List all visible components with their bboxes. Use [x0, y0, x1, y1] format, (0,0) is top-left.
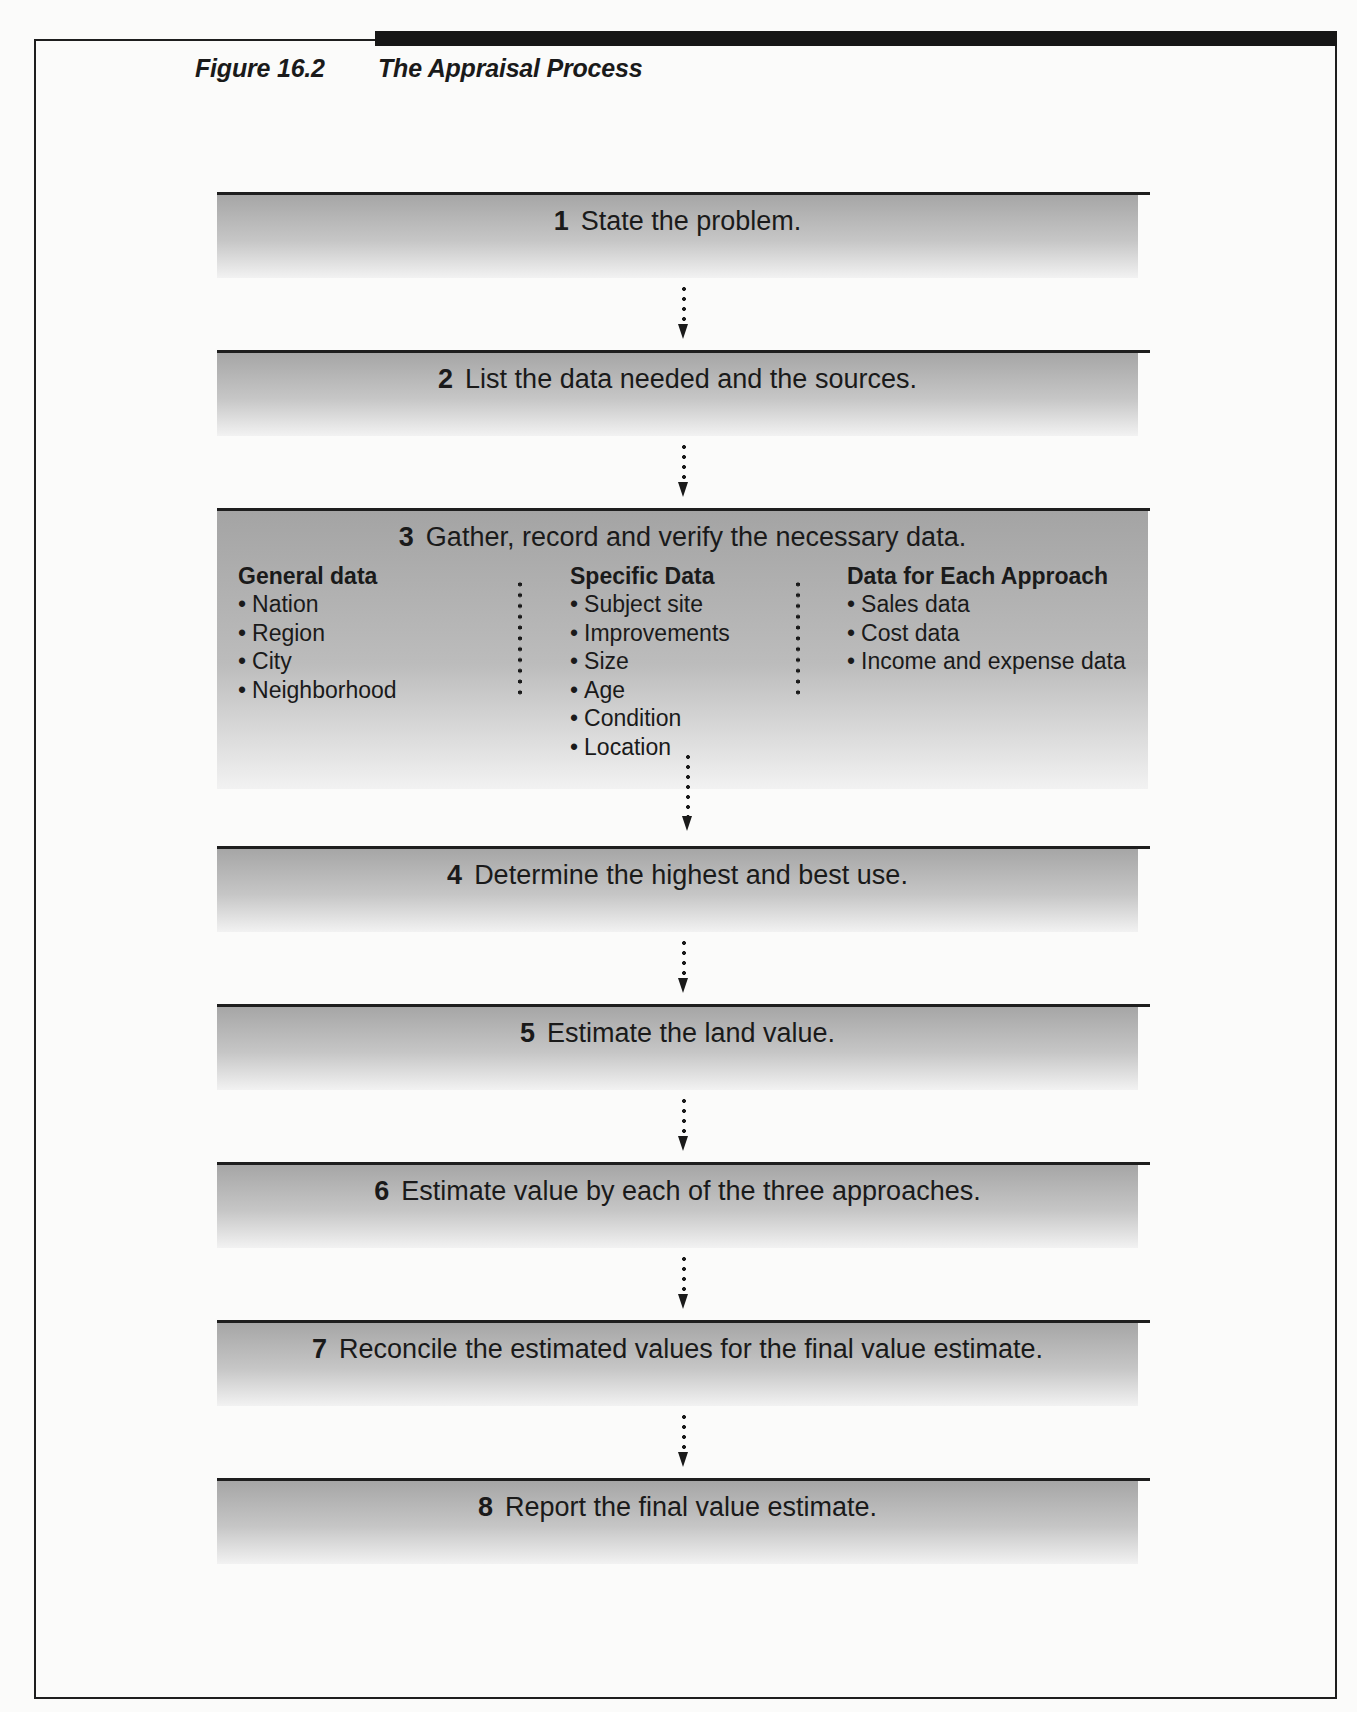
- approach-data-column: Data for Each Approach Sales data Cost d…: [847, 562, 1126, 676]
- step-5-label: 5Estimate the land value.: [217, 1018, 1138, 1049]
- step-2-label: 2List the data needed and the sources.: [217, 364, 1138, 395]
- figure-title: The Appraisal Process: [378, 54, 642, 82]
- list-item: Region: [238, 619, 397, 648]
- step-text: Estimate value by each of the three appr…: [401, 1176, 980, 1206]
- step-4-label: 4Determine the highest and best use.: [217, 860, 1138, 891]
- step-text: List the data needed and the sources.: [465, 364, 917, 394]
- column-heading: Data for Each Approach: [847, 562, 1126, 590]
- list-item: Condition: [570, 704, 730, 733]
- arrow-down-icon: [678, 938, 690, 994]
- list-item: Location: [570, 733, 730, 762]
- list-item: Age: [570, 676, 730, 705]
- step-6-box: 6Estimate value by each of the three app…: [217, 1162, 1150, 1248]
- arrow-down-icon: [678, 442, 690, 498]
- column-separator: [518, 579, 522, 697]
- step-1-label: 1State the problem.: [217, 206, 1138, 237]
- arrow-down-icon: [678, 1412, 690, 1468]
- step-3-label: 3Gather, record and verify the necessary…: [217, 522, 1148, 553]
- step-1-box: 1State the problem.: [217, 192, 1150, 278]
- list-item: Income and expense data: [847, 647, 1126, 676]
- step-2-box: 2List the data needed and the sources.: [217, 350, 1150, 436]
- step-number: 2: [438, 364, 453, 394]
- step-number: 4: [447, 860, 462, 890]
- column-separator: [796, 579, 800, 697]
- list-item: Size: [570, 647, 730, 676]
- step-number: 3: [399, 522, 414, 552]
- step-8-box: 8Report the final value estimate.: [217, 1478, 1150, 1564]
- arrow-down-icon: [682, 752, 694, 832]
- arrow-down-icon: [678, 1254, 690, 1310]
- step-6-label: 6Estimate value by each of the three app…: [217, 1176, 1138, 1207]
- list-item: Improvements: [570, 619, 730, 648]
- list-item: Nation: [238, 590, 397, 619]
- list-item: Subject site: [570, 590, 730, 619]
- list-item: Cost data: [847, 619, 1126, 648]
- step-7-label: 7Reconcile the estimated values for the …: [217, 1334, 1138, 1365]
- step-text: Determine the highest and best use.: [474, 860, 908, 890]
- arrow-down-icon: [678, 1096, 690, 1152]
- step-8-label: 8Report the final value estimate.: [217, 1492, 1138, 1523]
- list-item: Neighborhood: [238, 676, 397, 705]
- list-item: Sales data: [847, 590, 1126, 619]
- general-data-column: General data Nation Region City Neighbor…: [238, 562, 397, 704]
- header-bar: [375, 31, 1337, 46]
- figure-number: Figure 16.2: [195, 54, 378, 83]
- list-item: City: [238, 647, 397, 676]
- step-text: Reconcile the estimated values for the f…: [339, 1334, 1043, 1364]
- figure-caption: Figure 16.2The Appraisal Process: [195, 54, 642, 83]
- step-text: State the problem.: [581, 206, 802, 236]
- step-5-box: 5Estimate the land value.: [217, 1004, 1150, 1090]
- column-heading: Specific Data: [570, 562, 730, 590]
- column-heading: General data: [238, 562, 397, 590]
- step-7-box: 7Reconcile the estimated values for the …: [217, 1320, 1150, 1406]
- step-text: Estimate the land value.: [547, 1018, 835, 1048]
- step-number: 7: [312, 1334, 327, 1364]
- step-number: 1: [554, 206, 569, 236]
- specific-data-column: Specific Data Subject site Improvements …: [570, 562, 730, 762]
- arrow-down-icon: [678, 284, 690, 340]
- step-text: Gather, record and verify the necessary …: [426, 522, 966, 552]
- step-number: 5: [520, 1018, 535, 1048]
- step-number: 8: [478, 1492, 493, 1522]
- step-4-box: 4Determine the highest and best use.: [217, 846, 1150, 932]
- step-number: 6: [374, 1176, 389, 1206]
- step-3-box: 3Gather, record and verify the necessary…: [217, 508, 1150, 788]
- step-text: Report the final value estimate.: [505, 1492, 877, 1522]
